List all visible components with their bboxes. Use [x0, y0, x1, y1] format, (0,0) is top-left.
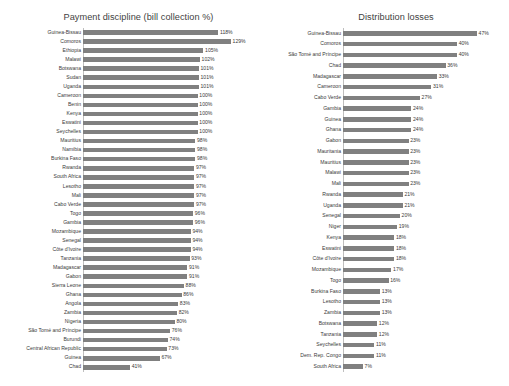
bar	[83, 347, 167, 352]
bar-area: 97%	[83, 182, 255, 191]
bar-row: Guinea67%	[0, 354, 255, 363]
category-label: South Africa	[255, 364, 343, 370]
bar-area: 80%	[83, 318, 255, 327]
bar-row: Mozambique17%	[255, 265, 509, 276]
bar-value-label: 12%	[377, 321, 389, 327]
bar	[83, 130, 198, 135]
category-label: Senegal	[255, 213, 343, 219]
bar	[343, 128, 411, 133]
bar	[343, 257, 394, 262]
bar-area: 97%	[83, 164, 255, 173]
bar-row: Zambia13%	[255, 308, 509, 319]
bar-area: 102%	[83, 55, 255, 64]
bar	[83, 220, 193, 225]
bar-value-label: 97%	[194, 193, 206, 199]
bar-value-label: 102%	[200, 57, 215, 63]
bar-row: Comoros129%	[0, 37, 255, 46]
distribution-losses-chart-title: Distribution losses	[255, 0, 509, 27]
bar-value-label: 19%	[397, 224, 409, 230]
payment-discipline-bar-rows: Guinea-Bissau118%Comoros129%Ethiopia105%…	[0, 28, 255, 372]
category-label: Gabon	[255, 138, 343, 144]
bar-area: 13%	[343, 286, 509, 297]
bar-value-label: 91%	[187, 274, 199, 280]
bar-row: Côte d'Ivoire18%	[255, 254, 509, 265]
bar-value-label: 31%	[431, 84, 443, 90]
bar-row: Malawi102%	[0, 55, 255, 64]
bar-area: 118%	[83, 28, 255, 37]
bar	[343, 106, 411, 111]
category-label: Nigeria	[0, 319, 83, 325]
bar-area: 100%	[83, 100, 255, 109]
category-label: Mozambique	[255, 267, 343, 273]
bar-row: Nigeria80%	[0, 318, 255, 327]
category-label: Chad	[255, 63, 343, 69]
bar-row: Togo16%	[255, 275, 509, 286]
bar	[83, 57, 200, 62]
bar-row: Guinea24%	[255, 114, 509, 125]
bar-row: Namibia98%	[0, 146, 255, 155]
bar-area: 40%	[343, 39, 509, 50]
bar	[83, 202, 194, 207]
category-label: Madagascar	[0, 265, 83, 271]
bar	[343, 182, 409, 187]
bar-area: 23%	[343, 157, 509, 168]
bar	[83, 256, 190, 261]
bar-value-label: 100%	[198, 102, 213, 108]
bar-area: 17%	[343, 265, 509, 276]
category-label: Namibia	[0, 147, 83, 153]
bar-area: 20%	[343, 211, 509, 222]
bar-area: 97%	[83, 191, 255, 200]
bar-row: Madagascar33%	[255, 71, 509, 82]
category-label: Benin	[0, 102, 83, 108]
category-label: Eswatini	[0, 120, 83, 126]
bar-row: Sierra Leone88%	[0, 281, 255, 290]
bar-value-label: 18%	[394, 235, 406, 241]
bar	[83, 211, 193, 216]
bar-area: 91%	[83, 272, 255, 281]
bar-row: Zambia82%	[0, 308, 255, 317]
bar-row: Mozambique94%	[0, 227, 255, 236]
category-label: Lesotho	[0, 184, 83, 190]
category-label: São Tomé and Príncipe	[0, 328, 83, 334]
bar-area: 100%	[83, 91, 255, 100]
bar-row: Seychelles11%	[255, 340, 509, 351]
category-label: Burkina Faso	[0, 156, 83, 162]
bar	[343, 278, 389, 283]
bar-area: 21%	[343, 189, 509, 200]
category-label: Mauritius	[0, 138, 83, 144]
category-label: Rwanda	[255, 192, 343, 198]
bar	[83, 238, 191, 243]
bar-value-label: 11%	[374, 353, 385, 359]
bar-value-label: 97%	[194, 174, 206, 180]
bar-area: 83%	[83, 299, 255, 308]
bar-row: Gambia96%	[0, 218, 255, 227]
bar-area: 23%	[343, 136, 509, 147]
payment-discipline-panel: Payment discipline (bill collection %) G…	[0, 0, 255, 386]
bar-area: 76%	[83, 327, 255, 336]
category-label: Tanzania	[255, 332, 343, 338]
bar-value-label: 74%	[168, 337, 180, 343]
bar	[343, 192, 403, 197]
bar-area: 11%	[343, 340, 509, 351]
category-label: Tanzania	[0, 256, 83, 262]
bar-area: 41%	[83, 363, 255, 372]
bar-area: 100%	[83, 109, 255, 118]
bar-area: 101%	[83, 82, 255, 91]
bar	[343, 139, 409, 144]
category-label: Togo	[255, 278, 343, 284]
bar-area: 74%	[83, 336, 255, 345]
bar-row: South Africa97%	[0, 173, 255, 182]
bar	[343, 74, 437, 79]
bar-area: 96%	[83, 218, 255, 227]
category-label: Guinea	[0, 355, 83, 361]
bar-area: 94%	[83, 227, 255, 236]
bar-area: 31%	[343, 82, 509, 93]
bar-value-label: 23%	[409, 170, 421, 176]
bar-area: 33%	[343, 71, 509, 82]
category-label: Malawi	[0, 57, 83, 63]
bar-value-label: 101%	[199, 66, 214, 72]
bar-value-label: 97%	[194, 165, 206, 171]
bar-value-label: 101%	[199, 84, 214, 90]
bar	[83, 284, 184, 289]
bar	[343, 203, 403, 208]
